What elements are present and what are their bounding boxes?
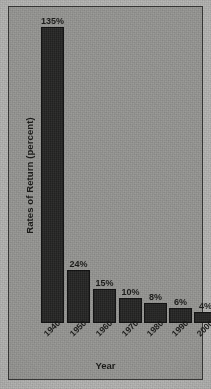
bar-value-label: 135% — [41, 16, 64, 26]
bar-series: 135% 24% 15% 10% 8% — [32, 7, 197, 323]
scanned-page: Rates of Return (percent) 135% 24% 15% 1… — [0, 0, 211, 389]
x-tick-1980: 1980 — [144, 326, 167, 344]
x-tick-1950: 1950 — [67, 326, 90, 344]
x-axis-title: Year — [9, 360, 202, 371]
bar-value-label: 4% — [199, 301, 211, 311]
bar-slot-1960: 15% — [93, 289, 116, 323]
x-tick-1940: 1940 — [41, 326, 64, 344]
plot-area: Rates of Return (percent) 135% 24% 15% 1… — [9, 7, 202, 379]
bar-value-label: 6% — [174, 297, 187, 307]
bar-1960 — [93, 289, 116, 323]
bar-value-label: 8% — [149, 292, 162, 302]
bar-1940 — [41, 27, 64, 323]
x-tick-1960: 1960 — [93, 326, 116, 344]
bar-slot-1950: 24% — [67, 270, 90, 323]
x-tick-2000: 2000 — [194, 326, 211, 344]
bar-slot-1940: 135% — [41, 27, 64, 323]
bar-value-label: 15% — [95, 278, 113, 288]
bar-1950 — [67, 270, 90, 323]
x-axis-tick-labels: 1940 1950 1960 1970 1980 1990 20 — [32, 324, 197, 364]
chart-frame: Rates of Return (percent) 135% 24% 15% 1… — [8, 6, 203, 380]
bar-value-label: 10% — [121, 287, 139, 297]
x-tick-1990: 1990 — [169, 326, 192, 344]
bar-value-label: 24% — [69, 259, 87, 269]
x-tick-1970: 1970 — [119, 326, 142, 344]
